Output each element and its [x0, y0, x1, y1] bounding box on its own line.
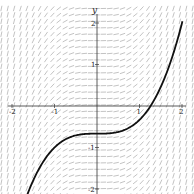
y-tick-label: 2	[91, 20, 95, 28]
x-tick-label: -1	[52, 108, 59, 116]
y-axis-label: y	[91, 5, 98, 15]
y-tick-label: -2	[88, 186, 95, 194]
y-tick-label: 1	[91, 61, 95, 69]
x-tick-label: -2	[9, 108, 16, 116]
x-tick-label: 1	[137, 108, 141, 116]
plot-area: -2-11221-1-2y	[0, 0, 194, 194]
x-tick-label: 2	[179, 108, 183, 116]
slope-field-chart: -2-11221-1-2y	[0, 0, 194, 194]
y-tick-label: -1	[88, 144, 95, 152]
